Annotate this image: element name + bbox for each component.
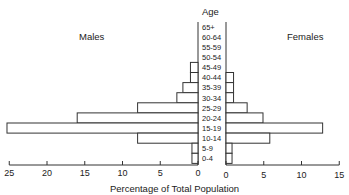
left-axis-tick-label: 20 — [42, 168, 52, 178]
left-axis-tick-label: 5 — [158, 168, 163, 178]
female-bar — [226, 123, 323, 133]
right-axis-tick-label: 0 — [223, 170, 228, 180]
male-bar — [77, 113, 198, 123]
male-bar — [138, 133, 198, 143]
age-label: 30-34 — [202, 94, 221, 103]
male-bar — [192, 153, 198, 163]
x-axis-title: Percentage of Total Population — [0, 183, 349, 194]
male-bar — [177, 93, 198, 103]
female-bar — [226, 93, 234, 103]
male-bar — [192, 143, 198, 153]
age-label: 20-24 — [202, 114, 221, 123]
age-axis-header: Age — [202, 6, 219, 17]
female-bar — [226, 133, 270, 143]
male-bar — [7, 123, 198, 133]
female-bar — [226, 113, 263, 123]
age-label: 25-29 — [202, 104, 221, 113]
right-axis-tick-label: 10 — [296, 170, 306, 180]
age-label: 0-4 — [202, 154, 213, 163]
female-bar — [226, 143, 232, 153]
age-label: 35-39 — [202, 83, 221, 92]
males-legend-label: Males — [79, 31, 104, 42]
females-legend-label: Females — [287, 31, 323, 42]
left-axis-tick-label: 10 — [117, 168, 127, 178]
age-label: 55-59 — [202, 43, 221, 52]
population-pyramid-chart: 65+60-6455-5950-5445-4940-4435-3930-3425… — [0, 0, 349, 195]
female-bar — [226, 73, 234, 83]
male-bar — [138, 103, 198, 113]
left-axis-tick-label: 25 — [4, 168, 14, 178]
age-label: 50-54 — [202, 53, 221, 62]
right-axis-tick-label: 15 — [334, 170, 344, 180]
male-bar — [190, 62, 198, 72]
age-label: 5-9 — [202, 144, 213, 153]
age-label: 65+ — [202, 23, 215, 32]
age-label: 45-49 — [202, 63, 221, 72]
female-bar — [226, 153, 232, 163]
female-bar — [226, 103, 247, 113]
age-label: 40-44 — [202, 73, 221, 82]
age-label: 10-14 — [202, 134, 221, 143]
left-axis-tick-label: 0 — [195, 168, 200, 178]
female-bar — [226, 83, 234, 93]
right-axis-tick-label: 5 — [261, 170, 266, 180]
age-label: 15-19 — [202, 124, 221, 133]
left-axis-tick-label: 15 — [80, 168, 90, 178]
male-bar — [183, 83, 198, 93]
age-label: 60-64 — [202, 33, 221, 42]
male-bar — [190, 73, 198, 83]
